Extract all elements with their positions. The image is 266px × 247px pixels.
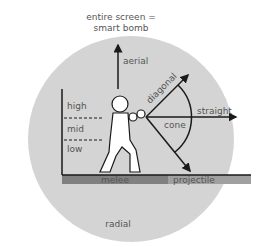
high-label: high	[67, 101, 87, 111]
projectile-label: projectile	[173, 175, 215, 185]
title-line2: smart bomb	[94, 23, 149, 33]
cone-label: cone	[164, 120, 186, 130]
aerial-label: aerial	[123, 56, 148, 66]
low-label: low	[67, 144, 82, 154]
radial-label: radial	[105, 219, 130, 229]
title-line1: entire screen =	[86, 12, 156, 22]
attack-types-diagram: entire screen = smart bomb aerial high m…	[0, 0, 266, 247]
mid-label: mid	[67, 124, 84, 134]
straight-label: straight	[197, 106, 232, 116]
radial-circle	[28, 36, 234, 242]
melee-label: melee	[101, 175, 129, 185]
